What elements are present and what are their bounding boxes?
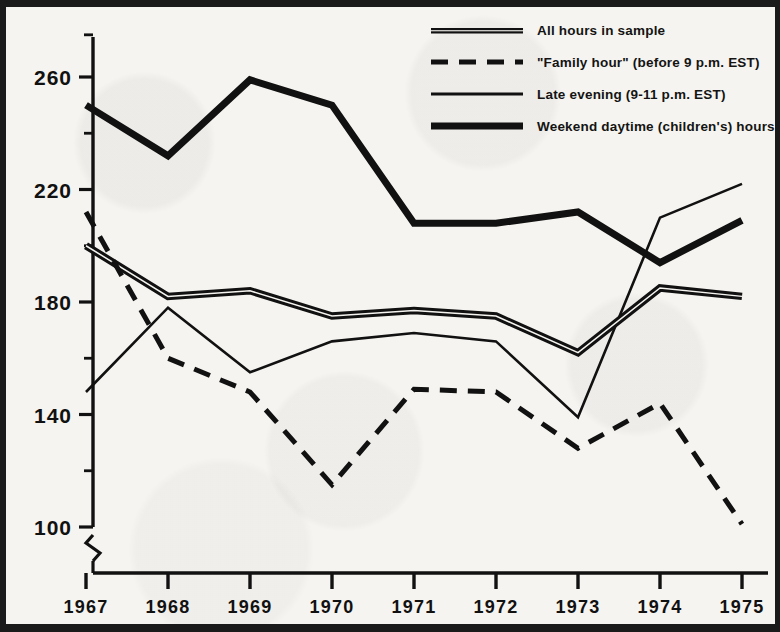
chart-legend: All hours in sample "Family hour" (befor… (431, 23, 775, 134)
legend-item-2: Late evening (9-11 p.m. EST) (431, 87, 726, 102)
legend-label-1: "Family hour" (before 9 p.m. EST) (537, 55, 760, 70)
x-tick-label-1973: 1973 (556, 597, 601, 617)
y-axis (86, 37, 100, 573)
series-line-weekend-daytime (86, 80, 742, 263)
x-tick-label-1971: 1971 (392, 597, 437, 617)
x-tick-marks (86, 573, 742, 589)
legend-item-0: All hours in sample (431, 23, 666, 38)
x-tick-label-1974: 1974 (638, 597, 683, 617)
series-group (86, 80, 742, 524)
scan-border-bottom (0, 624, 780, 632)
legend-label-0: All hours in sample (537, 23, 666, 38)
x-tick-label-1967: 1967 (64, 597, 109, 617)
y-tick-label-180: 180 (34, 291, 72, 314)
x-tick-label-1970: 1970 (310, 597, 355, 617)
line-chart: 100140180220260 196719681969197019711972… (6, 7, 775, 624)
figure-container: 100140180220260 196719681969197019711972… (0, 0, 780, 632)
x-tick-label-1972: 1972 (474, 597, 519, 617)
x-tick-label-1968: 1968 (146, 597, 191, 617)
double-thick-solid-swatch-gap (431, 30, 523, 31)
legend-label-3: Weekend daytime (children's) hours (537, 119, 775, 134)
y-tick-label-140: 140 (34, 404, 72, 427)
series-line-all-hours (86, 246, 742, 353)
y-tick-labels: 100140180220260 (34, 66, 72, 539)
x-tick-labels: 196719681969197019711972197319741975 (64, 597, 765, 617)
y-tick-label-100: 100 (34, 516, 72, 539)
y-tick-label-260: 260 (34, 66, 72, 89)
x-tick-label-1975: 1975 (720, 597, 765, 617)
legend-item-3: Weekend daytime (children's) hours (431, 119, 775, 134)
y-tick-label-220: 220 (34, 179, 72, 202)
plot-surface: 100140180220260 196719681969197019711972… (6, 7, 775, 624)
legend-label-2: Late evening (9-11 p.m. EST) (537, 87, 726, 102)
y-tick-marks (79, 77, 93, 527)
legend-item-1: "Family hour" (before 9 p.m. EST) (431, 55, 760, 70)
x-tick-label-1969: 1969 (228, 597, 273, 617)
scan-border-top (0, 0, 780, 7)
y-axis-break-mark (86, 535, 100, 561)
scan-border-right (775, 0, 780, 632)
